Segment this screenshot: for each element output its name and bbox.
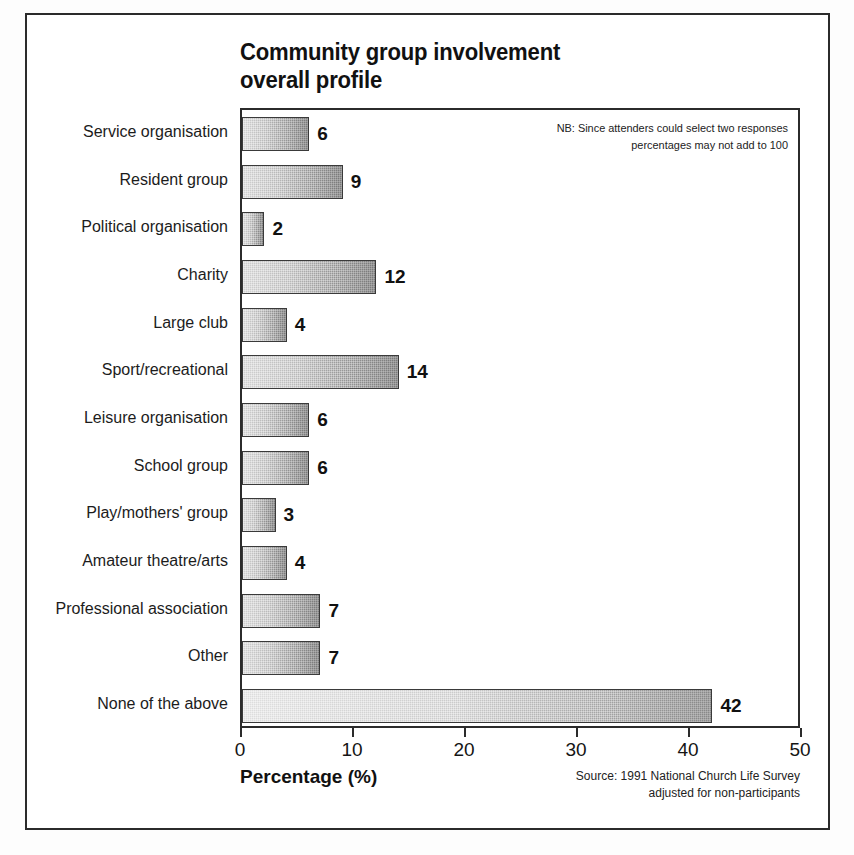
x-axis-tick: [240, 728, 242, 737]
bar[interactable]: [242, 212, 264, 246]
bar-row: 2: [242, 212, 802, 246]
category-label-row: Large club: [30, 306, 228, 340]
x-axis-tick: [688, 728, 690, 737]
category-label: Charity: [177, 266, 228, 284]
chart-figure: Community group involvement overall prof…: [0, 0, 854, 855]
bar-value-label: 6: [317, 409, 328, 431]
bar-value-label: 14: [407, 361, 428, 383]
category-label-row: Leisure organisation: [30, 401, 228, 435]
bar[interactable]: [242, 403, 309, 437]
bar-row: 42: [242, 689, 802, 723]
bar[interactable]: [242, 641, 320, 675]
bar[interactable]: [242, 498, 276, 532]
category-label-axis: Service organisationResident groupPoliti…: [30, 108, 228, 728]
x-axis-tick-label: 50: [789, 739, 810, 761]
bar[interactable]: [242, 308, 287, 342]
bar-row: 9: [242, 165, 802, 199]
category-label: Political organisation: [81, 218, 228, 236]
category-label-row: Amateur theatre/arts: [30, 544, 228, 578]
bar-row: 14: [242, 355, 802, 389]
category-label: Play/mothers' group: [86, 504, 228, 522]
category-label-row: Sport/recreational: [30, 353, 228, 387]
x-axis-title: Percentage (%): [240, 766, 377, 788]
bar[interactable]: [242, 594, 320, 628]
plot-area: NB: Since attenders could select two res…: [240, 108, 800, 728]
x-axis-tick-label: 10: [341, 739, 362, 761]
x-axis-tick-label: 40: [677, 739, 698, 761]
bar-row: 6: [242, 403, 802, 437]
bar-value-label: 9: [351, 171, 362, 193]
category-label-row: Professional association: [30, 592, 228, 626]
source-note: Source: 1991 National Church Life Survey…: [500, 768, 800, 803]
bar-value-label: 3: [284, 504, 295, 526]
chart-title: Community group involvement overall prof…: [240, 38, 755, 95]
bar[interactable]: [242, 355, 399, 389]
category-label: Amateur theatre/arts: [82, 552, 228, 570]
category-label: Other: [188, 647, 228, 665]
category-label: Service organisation: [83, 123, 228, 141]
bar-row: 6: [242, 451, 802, 485]
category-label-row: Political organisation: [30, 210, 228, 244]
category-label: Resident group: [119, 171, 228, 189]
bar-row: 6: [242, 117, 802, 151]
bar-row: 7: [242, 594, 802, 628]
bar-value-label: 4: [295, 314, 306, 336]
category-label-row: Resident group: [30, 163, 228, 197]
category-label: School group: [134, 457, 228, 475]
bar[interactable]: [242, 117, 309, 151]
bar[interactable]: [242, 546, 287, 580]
bar[interactable]: [242, 451, 309, 485]
bar-value-label: 6: [317, 457, 328, 479]
bar-value-label: 2: [272, 218, 283, 240]
x-axis-tick-label: 20: [453, 739, 474, 761]
category-label: Professional association: [55, 600, 228, 618]
category-label: Large club: [153, 314, 228, 332]
bar-value-label: 42: [720, 695, 741, 717]
x-axis-tick: [352, 728, 354, 737]
category-label-row: None of the above: [30, 687, 228, 721]
category-label: Sport/recreational: [102, 361, 228, 379]
category-label-row: School group: [30, 449, 228, 483]
bar-row: 3: [242, 498, 802, 532]
x-axis-tick: [576, 728, 578, 737]
category-label-row: Other: [30, 639, 228, 673]
category-label: None of the above: [97, 695, 228, 713]
bar-value-label: 12: [384, 266, 405, 288]
x-axis-tick-label: 30: [565, 739, 586, 761]
bar-value-label: 6: [317, 123, 328, 145]
bar-row: 4: [242, 308, 802, 342]
x-axis-tick: [464, 728, 466, 737]
category-label: Leisure organisation: [84, 409, 228, 427]
category-label-row: Service organisation: [30, 115, 228, 149]
x-axis-tick-label: 0: [235, 739, 246, 761]
bar[interactable]: [242, 165, 343, 199]
bar-value-label: 7: [328, 647, 339, 669]
category-label-row: Play/mothers' group: [30, 496, 228, 530]
bar-row: 12: [242, 260, 802, 294]
x-axis-tick: [800, 728, 802, 737]
bar[interactable]: [242, 689, 712, 723]
category-label-row: Charity: [30, 258, 228, 292]
bar-value-label: 4: [295, 552, 306, 574]
bar-value-label: 7: [328, 600, 339, 622]
bar-row: 4: [242, 546, 802, 580]
bar[interactable]: [242, 260, 376, 294]
bar-row: 7: [242, 641, 802, 675]
